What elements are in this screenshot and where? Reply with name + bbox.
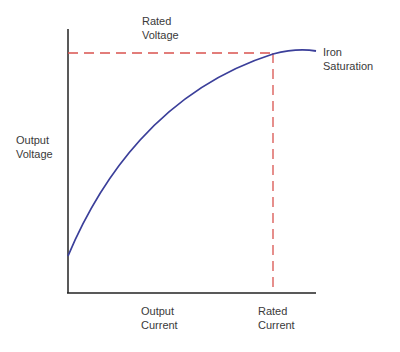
iron-saturation-label-line1: Iron bbox=[323, 45, 373, 59]
rated-voltage-label-line2: Voltage bbox=[142, 28, 179, 42]
iron-saturation-label-line2: Saturation bbox=[323, 59, 373, 73]
rated-voltage-label: Rated Voltage bbox=[142, 14, 179, 42]
output-current-label-line1: Output bbox=[141, 304, 178, 318]
output-voltage-label-line2: Voltage bbox=[16, 147, 53, 161]
voltage-current-curve bbox=[68, 50, 316, 256]
rated-current-label: Rated Current bbox=[258, 304, 295, 332]
output-current-label-line2: Current bbox=[141, 318, 178, 332]
output-voltage-label: Output Voltage bbox=[16, 133, 53, 161]
rated-current-label-line2: Current bbox=[258, 318, 295, 332]
output-voltage-label-line1: Output bbox=[16, 133, 53, 147]
iron-saturation-label: Iron Saturation bbox=[323, 45, 373, 73]
rated-voltage-label-line1: Rated bbox=[142, 14, 179, 28]
output-current-label: Output Current bbox=[141, 304, 178, 332]
rated-current-label-line1: Rated bbox=[258, 304, 295, 318]
